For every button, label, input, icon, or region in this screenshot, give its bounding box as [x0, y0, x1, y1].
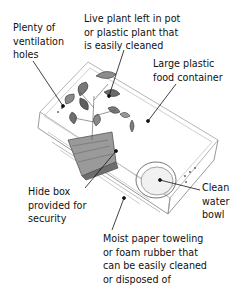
label-line: Hide box — [28, 185, 86, 199]
water-bowl — [136, 162, 176, 198]
label-substrate: Moist paper toweling or foam rubber that… — [103, 232, 207, 286]
label-container: Large plastic food container — [153, 57, 223, 84]
label-line: ventilation — [13, 35, 64, 49]
label-hide-box: Hide box provided for security — [28, 185, 86, 226]
label-line: Clean — [202, 181, 229, 195]
label-line: security — [28, 212, 86, 226]
label-water-bowl: Clean water bowl — [202, 181, 229, 222]
label-plant: Live plant left in pot or plastic plant … — [84, 12, 180, 53]
label-line: bowl — [202, 208, 229, 222]
label-line: holes — [13, 48, 64, 62]
label-line: Moist paper toweling — [103, 232, 207, 246]
label-line: Live plant left in pot — [84, 12, 180, 26]
label-line: water — [202, 195, 229, 209]
label-line: or disposed of — [103, 273, 207, 287]
label-line: Large plastic — [153, 57, 223, 71]
label-line: food container — [153, 71, 223, 85]
label-line: can be easily cleaned — [103, 259, 207, 273]
label-line: provided for — [28, 199, 86, 213]
plant — [65, 71, 134, 140]
label-ventilation-holes: Plenty of ventilation holes — [13, 21, 64, 62]
hide-box — [68, 132, 118, 180]
label-line: is easily cleaned — [84, 39, 180, 53]
label-line: or foam rubber that — [103, 246, 207, 260]
label-line: Plenty of — [13, 21, 64, 35]
label-line: or plastic plant that — [84, 26, 180, 40]
